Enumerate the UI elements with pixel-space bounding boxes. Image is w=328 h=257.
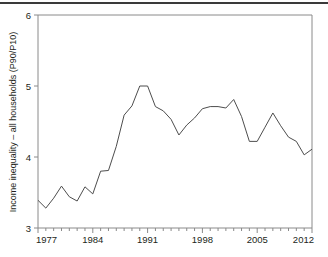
line-chart: 3456 197719841991199820052012 Income ine… — [0, 0, 328, 257]
x-tick-label: 1977 — [36, 234, 57, 245]
x-tick-label: 2005 — [247, 234, 268, 245]
plot-frame — [38, 15, 312, 228]
chart-svg: 3456 197719841991199820052012 Income ine… — [0, 0, 328, 257]
x-axis-ticks — [38, 228, 312, 233]
x-tick-label: 1984 — [82, 234, 103, 245]
x-axis-tick-labels: 197719841991199820052012 — [36, 234, 314, 245]
y-axis-tick-labels: 3456 — [26, 10, 31, 234]
y-axis-ticks — [34, 15, 38, 228]
figure-container: 3456 197719841991199820052012 Income ine… — [0, 0, 328, 257]
y-axis-title: Income inequality – all households (P90/… — [8, 32, 18, 213]
y-tick-label: 5 — [26, 81, 31, 92]
x-tick-label: 1991 — [137, 234, 158, 245]
y-tick-label: 4 — [26, 152, 31, 163]
data-series-line — [38, 86, 312, 208]
y-tick-label: 6 — [26, 10, 31, 21]
x-tick-label: 2012 — [293, 234, 314, 245]
y-tick-label: 3 — [26, 223, 31, 234]
x-tick-label: 1998 — [192, 234, 213, 245]
